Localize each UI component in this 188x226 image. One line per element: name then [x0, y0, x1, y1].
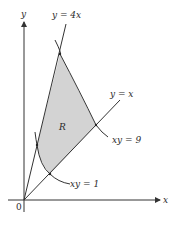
point-intersection: [36, 144, 38, 146]
point-intersection: [59, 53, 61, 55]
region-r-label: R: [58, 122, 66, 132]
region-diagram: y x 0 y = 4x y = x xy = 9 xy = 1 R: [0, 0, 188, 226]
label-y-4x: y = 4x: [51, 10, 81, 20]
label-xy-9: xy = 9: [112, 135, 141, 145]
point-intersection: [95, 124, 97, 126]
x-axis-label: x: [163, 195, 168, 205]
label-y-x: y = x: [109, 89, 133, 99]
y-axis-label: y: [20, 9, 27, 19]
origin-label: 0: [16, 202, 22, 212]
point-intersection: [49, 173, 51, 175]
label-xy-1: xy = 1: [70, 179, 99, 189]
